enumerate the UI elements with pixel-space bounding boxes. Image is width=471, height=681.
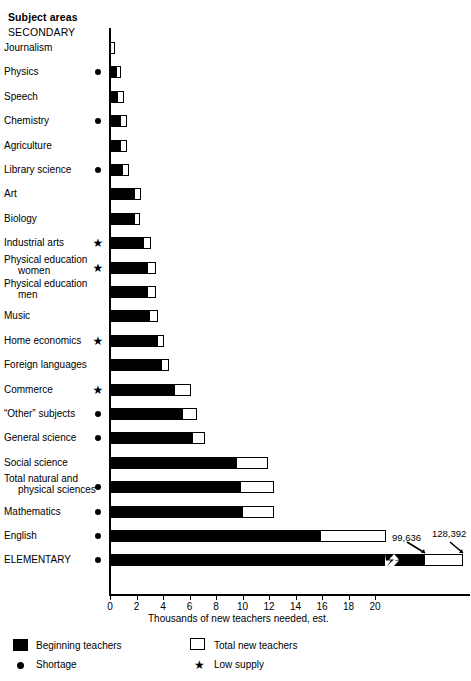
callout-elementary-total: 128,392 bbox=[432, 528, 466, 539]
category-label: General science bbox=[4, 432, 86, 443]
bar-beginning-teachers bbox=[110, 335, 158, 347]
low-supply-star-icon: ★ bbox=[92, 384, 104, 396]
shortage-dot-icon bbox=[92, 530, 104, 542]
bar-row bbox=[110, 432, 205, 444]
category-label: Biology bbox=[4, 213, 86, 224]
low-supply-star-icon: ★ bbox=[92, 237, 104, 249]
bar-beginning-teachers bbox=[110, 530, 321, 542]
bar-row bbox=[110, 286, 156, 298]
category-label: Speech bbox=[4, 91, 86, 102]
x-axis-tick-label: 16 bbox=[312, 601, 332, 612]
x-axis-tick bbox=[163, 595, 164, 600]
category-label: Commerce bbox=[4, 384, 86, 395]
bar-row bbox=[110, 115, 127, 127]
x-axis-tick-label: 2 bbox=[127, 601, 147, 612]
category-label-line1: Speech bbox=[4, 91, 38, 102]
shortage-dot-icon bbox=[92, 554, 104, 566]
bar-row bbox=[110, 42, 115, 54]
category-label: Industrial arts bbox=[4, 237, 86, 248]
bar-row bbox=[110, 384, 191, 396]
x-axis-tick bbox=[243, 595, 244, 600]
bar-row bbox=[110, 310, 158, 322]
category-label: Mathematics bbox=[4, 506, 86, 517]
category-label-line2: women bbox=[4, 265, 86, 276]
bar-beginning-teachers bbox=[110, 408, 183, 420]
bar-row bbox=[110, 408, 197, 420]
section-label-secondary: SECONDARY bbox=[8, 26, 75, 38]
low-supply-star-icon: ★ bbox=[92, 335, 104, 347]
legend-swatch-beginning-teachers bbox=[13, 639, 28, 651]
legend-swatch-total-new-teachers bbox=[190, 638, 205, 650]
bar-row bbox=[110, 506, 274, 518]
category-label: Physics bbox=[4, 66, 86, 77]
bar-beginning-teachers bbox=[110, 115, 121, 127]
bar-beginning-teachers bbox=[110, 213, 135, 225]
category-label: Chemistry bbox=[4, 115, 86, 126]
bar-row bbox=[110, 481, 274, 493]
bar-row bbox=[110, 91, 124, 103]
category-label-line1: Mathematics bbox=[4, 506, 61, 517]
bar-row bbox=[110, 359, 169, 371]
axis-break-zigzag-icon bbox=[385, 554, 403, 566]
shortage-dot-icon bbox=[92, 115, 104, 127]
category-label-line1: Biology bbox=[4, 213, 37, 224]
shortage-dot-icon bbox=[92, 481, 104, 493]
x-axis-tick bbox=[216, 595, 217, 600]
x-axis-tick bbox=[137, 595, 138, 600]
legend-label-total-new-teachers: Total new teachers bbox=[214, 640, 297, 651]
bar-row bbox=[110, 335, 164, 347]
category-label-line1: Physics bbox=[4, 66, 38, 77]
category-label: Music bbox=[4, 310, 86, 321]
category-label-line1: Home economics bbox=[4, 335, 81, 346]
category-label: Agriculture bbox=[4, 140, 86, 151]
x-axis-tick-label: 18 bbox=[339, 601, 359, 612]
bar-beginning-teachers bbox=[110, 91, 118, 103]
category-label: Home economics bbox=[4, 335, 86, 346]
x-axis-tick-label: 6 bbox=[180, 601, 200, 612]
shortage-dot-icon bbox=[92, 506, 104, 518]
category-label: Total natural andphysical sciences bbox=[4, 473, 86, 495]
x-axis-tick-label: 4 bbox=[153, 601, 173, 612]
chart-canvas: Subject areas SECONDARY JournalismPhysic… bbox=[0, 0, 471, 681]
category-label-line1: Chemistry bbox=[4, 115, 49, 126]
callout-leader-lines bbox=[405, 541, 471, 560]
bar-beginning-teachers bbox=[110, 188, 135, 200]
category-label-line1: General science bbox=[4, 432, 76, 443]
bar-beginning-teachers-segment-1 bbox=[110, 554, 385, 566]
bar-beginning-teachers bbox=[110, 66, 117, 78]
bar-row bbox=[110, 262, 156, 274]
category-label-line1: Agriculture bbox=[4, 140, 52, 151]
x-axis-tick bbox=[269, 595, 270, 600]
page-title: Subject areas bbox=[8, 11, 78, 23]
x-axis-tick-label: 14 bbox=[286, 601, 306, 612]
x-axis-tick bbox=[375, 595, 376, 600]
bar-beginning-teachers bbox=[110, 164, 123, 176]
category-label-line1: Library science bbox=[4, 164, 71, 175]
bar-row bbox=[110, 237, 151, 249]
category-label-line1: Commerce bbox=[4, 384, 53, 395]
bar-beginning-teachers bbox=[110, 481, 241, 493]
bar-row bbox=[110, 164, 129, 176]
x-axis-title: Thousands of new teachers needed, est. bbox=[148, 613, 329, 624]
x-axis-tick-label: 8 bbox=[206, 601, 226, 612]
category-label: Art bbox=[4, 188, 86, 199]
category-label: “Other” subjects bbox=[4, 408, 86, 419]
bar-row bbox=[110, 66, 121, 78]
category-label-line1: Physical education bbox=[4, 254, 87, 265]
bar-beginning-teachers bbox=[110, 140, 121, 152]
x-axis-tick-label: 12 bbox=[259, 601, 279, 612]
bar-beginning-teachers bbox=[110, 286, 148, 298]
bar-beginning-teachers bbox=[110, 432, 193, 444]
bar-beginning-teachers bbox=[110, 359, 162, 371]
bar-beginning-teachers bbox=[110, 262, 148, 274]
category-label-line1: Music bbox=[4, 310, 30, 321]
category-label-line1: “Other” subjects bbox=[4, 408, 75, 419]
bar-row bbox=[110, 457, 268, 469]
legend-label-beginning-teachers: Beginning teachers bbox=[36, 640, 122, 651]
category-label-line1: Journalism bbox=[4, 42, 52, 53]
category-label: Physical educationwomen bbox=[4, 254, 86, 276]
x-axis-tick-label: 0 bbox=[100, 601, 120, 612]
bar-beginning-teachers bbox=[110, 237, 144, 249]
category-label: Social science bbox=[4, 457, 86, 468]
category-label: Library science bbox=[4, 164, 86, 175]
